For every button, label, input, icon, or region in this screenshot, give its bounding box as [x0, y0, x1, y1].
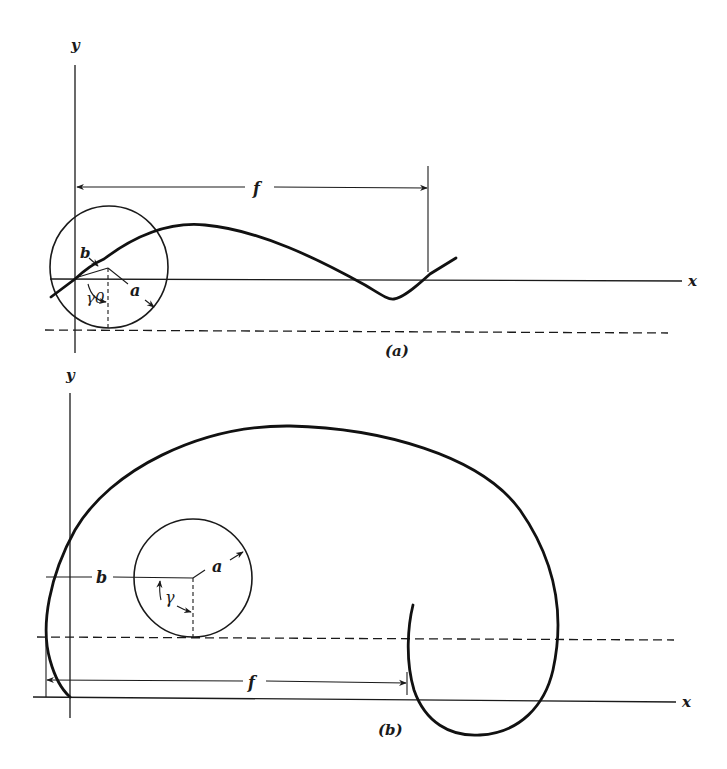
radius-arrow-b	[230, 552, 243, 560]
x-axis-label-b: x	[681, 693, 692, 711]
trajectory-curve-b	[46, 426, 558, 735]
radius-line-b	[193, 570, 205, 578]
offset-line-right-b	[113, 577, 193, 578]
f-label-b: f	[247, 673, 258, 692]
a-label-b: a	[212, 557, 222, 576]
caption-a: (a)	[385, 342, 409, 360]
f-arrow-right-a	[274, 187, 427, 188]
angle-arc-gamma-lower	[177, 606, 191, 612]
wheel-circle-a	[50, 206, 168, 328]
x-axis-a	[50, 279, 682, 281]
f-arrow-left-b	[47, 680, 243, 681]
b-label-b: b	[96, 568, 107, 587]
angle-arc-gamma-upper	[160, 581, 161, 600]
b-label-a: b	[80, 244, 91, 262]
baseline-dashed-b	[37, 637, 674, 640]
radius-line-a	[108, 268, 128, 284]
x-axis-label-a: x	[687, 272, 698, 290]
gamma-label: γ	[165, 588, 175, 607]
panel-a: y x f b γ0 a (a)	[45, 36, 698, 360]
caption-b: (b)	[378, 721, 403, 739]
figure-canvas: y x f b γ0 a (a) y	[0, 0, 727, 769]
a-label-a: a	[130, 281, 140, 300]
radius-arrow-a	[145, 300, 154, 307]
y-axis-label-a: y	[70, 36, 81, 54]
x-axis-b	[33, 697, 676, 702]
y-axis-label-b: y	[65, 366, 76, 384]
panel-b: y x a b γ f (b)	[33, 366, 692, 739]
f-arrow-right-b	[266, 681, 406, 683]
f-label-a: f	[252, 179, 263, 198]
gamma0-label: γ0	[86, 289, 105, 307]
baseline-dashed-a	[45, 330, 668, 333]
trajectory-curve-a	[51, 224, 456, 299]
